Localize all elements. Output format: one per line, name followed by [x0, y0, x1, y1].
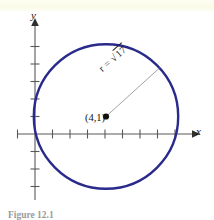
radius-segment — [106, 68, 160, 117]
plot-canvas — [0, 0, 214, 220]
x-axis-label: x — [196, 125, 201, 137]
center-point-label: (4,1) — [85, 112, 105, 123]
y-axis-label: y — [31, 9, 36, 21]
figure-caption: Figure 12.1 — [8, 210, 208, 220]
circle-figure: y x (4,1) r = √17 Figure 12.1 — [0, 0, 214, 220]
